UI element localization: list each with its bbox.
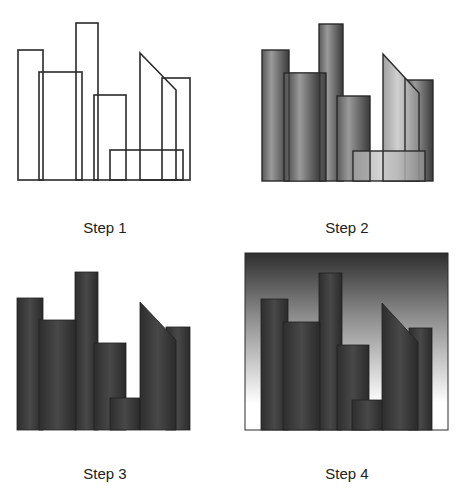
building-b <box>39 320 76 430</box>
building-b-inner <box>289 73 320 181</box>
step-1-label: Step 1 <box>45 219 165 236</box>
building-e <box>352 400 383 430</box>
building-b <box>283 322 320 430</box>
building-slant <box>140 53 176 180</box>
step-3-label: Step 3 <box>45 465 165 482</box>
panel-step-3 <box>17 272 190 430</box>
panel-step-4 <box>245 253 448 430</box>
panel-step-2 <box>262 24 433 181</box>
step-2-label: Step 2 <box>287 219 407 236</box>
building-e <box>353 151 425 181</box>
step-4-label: Step 4 <box>287 465 407 482</box>
skyline-diagram <box>0 0 459 491</box>
building-e <box>110 398 140 430</box>
panel-step-1 <box>18 23 190 180</box>
building-slant <box>140 302 176 430</box>
building-e <box>110 150 183 180</box>
